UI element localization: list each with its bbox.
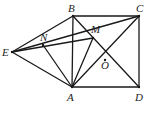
label-C: C (136, 2, 144, 14)
diagram-svg: ABCDENMO (0, 0, 149, 115)
label-M: M (90, 23, 101, 35)
segment-MA (72, 38, 93, 87)
point-A (71, 86, 73, 88)
segment-EA (12, 52, 72, 87)
point-C (138, 15, 140, 17)
point-D (138, 86, 140, 88)
point-N (42, 44, 44, 46)
point-E (11, 51, 13, 53)
label-D: D (134, 91, 143, 103)
geometry-diagram: ABCDENMO (0, 0, 149, 115)
segment-EC (12, 16, 139, 52)
label-B: B (68, 2, 75, 14)
point-B (72, 15, 74, 17)
label-O: O (101, 59, 109, 71)
label-N: N (39, 31, 48, 43)
segment-AB (72, 16, 73, 87)
label-A: A (66, 91, 74, 103)
label-E: E (1, 46, 9, 58)
segment-NA (43, 45, 72, 87)
point-M (92, 37, 94, 39)
